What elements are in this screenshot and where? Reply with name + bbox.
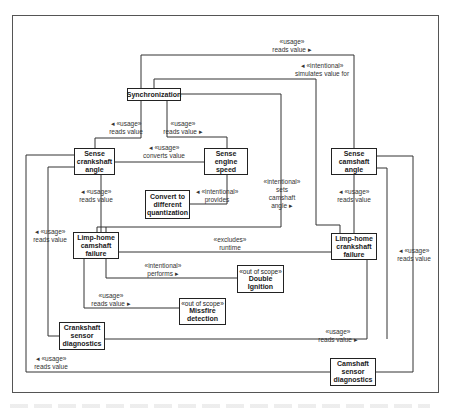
- node-label: Sense engine speed: [215, 150, 238, 174]
- node-limp-home-crankshaft-failure[interactable]: Limp-home crankshaft failure: [331, 233, 377, 260]
- node-label: Double Ignition: [248, 275, 273, 291]
- edge-cam-diag-reads-cam: [375, 156, 413, 372]
- node-sense-camshaft-angle[interactable]: Sense camshaft angle: [331, 148, 377, 175]
- connector-lines: [0, 0, 453, 416]
- edge-label-e9: ◂ «usage» reads value: [334, 188, 374, 204]
- edge-label-e11: «intentional» performs ▸: [140, 262, 186, 278]
- caption-illegible: [10, 404, 430, 408]
- edge-label-e15: ◂ «usage» reads value: [30, 355, 72, 371]
- node-sense-engine-speed[interactable]: Sense engine speed: [204, 148, 248, 175]
- edge-label-e10: «excludes» runtime: [208, 236, 252, 252]
- node-label: Missfire detection: [187, 307, 218, 323]
- node-crankshaft-sensor-diagnostics[interactable]: Crankshaft sensor diagnostics: [59, 322, 105, 350]
- edge-label-e8: ◂ «usage» reads value: [76, 188, 116, 204]
- stereotype-label: «out of scope»: [181, 300, 224, 307]
- node-label: Convert to different quantization: [147, 193, 188, 217]
- node-missfire-detection[interactable]: «out of scope» Missfire detection: [179, 298, 226, 325]
- node-label: Sense camshaft angle: [339, 150, 370, 174]
- stereotype-label: «out of scope»: [239, 268, 282, 275]
- edge-label-e12: «usage» reads value ▸: [86, 292, 136, 308]
- node-limp-home-camshaft-failure[interactable]: Limp-home camshaft failure: [73, 232, 119, 259]
- edge-crank-diag-reads: [48, 167, 74, 336]
- edge-label-e14: «usage» reads value ▸: [312, 328, 364, 344]
- edge-label-e13: ◂ «usage» reads value: [30, 228, 70, 244]
- node-sense-crankshaft-angle[interactable]: Sense crankshaft angle: [74, 148, 115, 175]
- node-label: Camshaft sensor diagnostics: [334, 360, 373, 384]
- edge-label-e5: ◂ «usage» converts value: [134, 144, 194, 160]
- edge-label-e6: «intentional» sets camshaft angle ▸: [258, 178, 306, 210]
- edge-label-e16: ◂ «usage» reads value: [392, 247, 436, 263]
- node-camshaft-sensor-diagnostics[interactable]: Camshaft sensor diagnostics: [330, 358, 376, 386]
- node-label: Crankshaft sensor diagnostics: [63, 324, 102, 348]
- node-label: Limp-home camshaft failure: [77, 234, 115, 258]
- edge-label-e3: ◂ «usage» reads value: [106, 120, 146, 136]
- node-synchronization[interactable]: Synchronization: [127, 88, 181, 101]
- node-double-ignition[interactable]: «out of scope» Double Ignition: [237, 265, 284, 293]
- node-label: Synchronization: [127, 91, 181, 99]
- edge-label-e4: «usage» reads value ▸: [158, 120, 208, 136]
- node-label: Limp-home crankshaft failure: [335, 235, 373, 259]
- edge-label-e1: «usage» reads value ▸: [262, 38, 322, 54]
- node-convert-quantization[interactable]: Convert to different quantization: [145, 190, 190, 219]
- edge-label-e2: ◂ «intentional» simulates value for: [284, 62, 360, 78]
- edge-label-e7: ◂ «intentional» provides: [192, 188, 242, 204]
- node-label: Sense crankshaft angle: [77, 150, 112, 174]
